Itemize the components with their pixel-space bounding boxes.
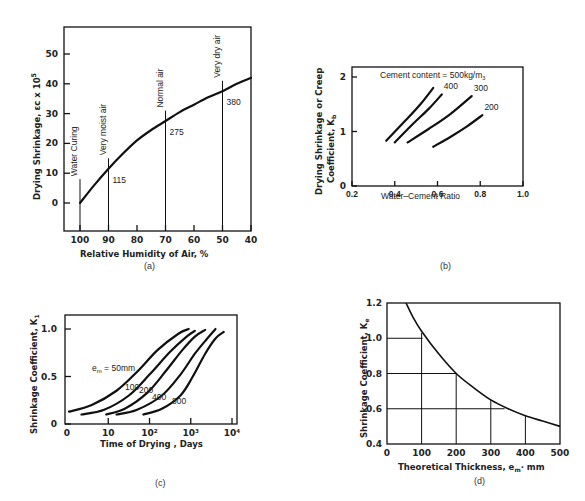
chart-panel-c: 00.51.001010²10³10⁴100200400800 (41, 315, 240, 438)
x-tick-label: 100 (412, 448, 431, 458)
x-tick-label: 100 (71, 235, 90, 245)
x-tick-label: 0.2 (346, 189, 358, 199)
y-tick-label: 0 (340, 181, 346, 191)
y-tick-label: 0.5 (41, 372, 57, 382)
panel-d-xlabel: Theoretical Thickness, em· mm (398, 462, 545, 473)
x-tick-label: 500 (551, 448, 570, 458)
y-tick-label: 0 (52, 198, 58, 208)
y-tick-label: 1 (340, 127, 346, 137)
curve-label: 200 (484, 102, 498, 112)
x-tick-label: 0 (384, 448, 390, 458)
thickness-curve (406, 303, 560, 426)
panel-d-label: (d) (474, 476, 485, 486)
cement-curve-500 (386, 88, 433, 141)
x-tick-label: 40 (245, 235, 258, 245)
marker-label: Normal air (155, 68, 165, 107)
panel-c-ylabel: Shrinkage Coefficient, K1 (29, 314, 40, 434)
x-tick-label: 60 (188, 235, 201, 245)
marker-label: Very moist air (98, 104, 108, 156)
panel-b-xlabel: Water–Cement Ratio (381, 191, 460, 201)
x-tick-label: 10² (141, 428, 158, 438)
x-tick-label: 50 (216, 235, 229, 245)
x-tick-label: 70 (159, 235, 172, 245)
y-tick-label: 1.0 (41, 324, 57, 334)
figure-canvas: 01020304050100908070605040Water CuringVe… (0, 0, 585, 501)
marker-value: 115 (113, 175, 127, 185)
x-tick-label: 80 (131, 235, 144, 245)
panel-a-ylabel: Drying Shrinkage, εc x 105 (30, 72, 42, 200)
x-tick-label: 10 (102, 428, 115, 438)
marker-label: Water Curing (69, 126, 79, 176)
y-tick-label: 30 (45, 109, 58, 119)
x-tick-label: 0.8 (474, 189, 486, 199)
panel-c-em-label: em = 50mm (92, 363, 135, 374)
x-tick-label: 0 (64, 428, 70, 438)
curve-label: 100 (125, 382, 139, 392)
y-tick-label: 0.4 (366, 439, 382, 449)
panel-b-ylabel-line2: Coefficient, Kb (326, 114, 337, 183)
panel-b-ylabel-line1: Drying Shrinkage or Creep (314, 68, 324, 195)
chart-panel-b: 0120.20.40.60.81.0400300200 (340, 67, 529, 199)
y-tick-label: 40 (45, 79, 58, 89)
panel-b-annotation: Cement content = 500kg/m3 (380, 70, 485, 81)
marker-value: 380 (227, 97, 241, 107)
marker-value: 275 (170, 127, 184, 137)
chart-panel-a: 01020304050100908070605040Water CuringVe… (45, 27, 257, 245)
y-tick-label: 2 (340, 72, 346, 82)
x-tick-label: 10³ (183, 428, 200, 438)
panel-b-label: (b) (440, 261, 451, 271)
curve-label: 800 (172, 396, 186, 406)
panel-d-ylabel: Shrinkage Coefficient, Ke (359, 318, 370, 438)
curve-label: 400 (444, 81, 458, 91)
panel-a-xlabel: Relative Humidity of Air, % (80, 249, 209, 259)
x-tick-label: 300 (481, 448, 500, 458)
plot-frame (65, 315, 237, 424)
y-tick-label: 0 (51, 419, 57, 429)
x-tick-label: 200 (447, 448, 466, 458)
x-tick-label: 1.0 (517, 189, 529, 199)
marker-label: Very dry air (212, 35, 222, 78)
panel-c-xlabel: Time of Drying , Days (100, 439, 203, 449)
y-tick-label: 20 (45, 138, 58, 148)
plot-frame (352, 67, 523, 186)
y-tick-label: 50 (45, 49, 58, 59)
panel-a-label: (a) (144, 261, 155, 271)
chart-panel-d: 0.40.60.81.01.20100200300400500 (366, 298, 569, 458)
curve-label: 400 (152, 392, 166, 402)
x-tick-label: 10⁴ (224, 428, 241, 438)
x-tick-label: 90 (102, 235, 115, 245)
y-tick-label: 1.2 (366, 298, 382, 308)
panel-c-label: (c) (155, 478, 166, 488)
curve-label: 300 (474, 83, 488, 93)
y-tick-label: 10 (45, 168, 58, 178)
x-tick-label: 400 (516, 448, 535, 458)
